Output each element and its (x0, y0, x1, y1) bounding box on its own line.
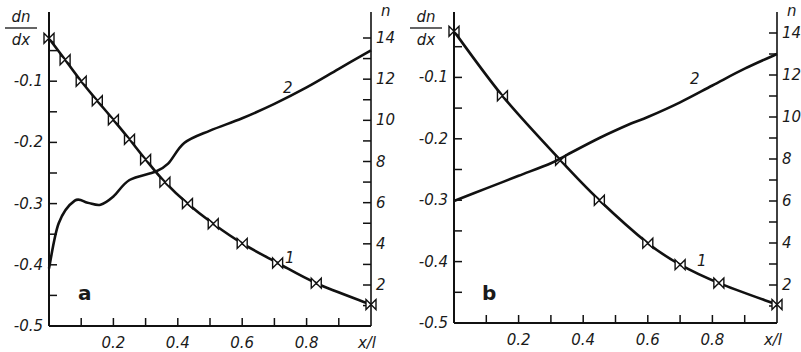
curve-1-label: 1 (285, 249, 295, 267)
bowtie-marker-icon (311, 278, 321, 288)
left-tick-label: -0.4 (14, 256, 43, 274)
bowtie-marker-icon (125, 134, 135, 144)
left-axis-title-den: dx (12, 31, 31, 49)
left-tick-label: -0.2 (419, 130, 448, 148)
bowtie-marker-icon (92, 96, 102, 106)
curve-2-label: 2 (690, 70, 700, 88)
right-tick-label: 2 (376, 276, 386, 294)
bowtie-marker-icon (76, 76, 86, 86)
right-tick-label: 8 (782, 150, 792, 168)
bowtie-marker-icon (714, 278, 724, 288)
right-tick-label: 12 (376, 70, 395, 88)
bowtie-marker-icon (594, 195, 604, 205)
x-tick-label: 0.6 (636, 331, 660, 349)
right-axis-title: n (787, 2, 797, 20)
left-tick-label: -0.4 (419, 253, 448, 271)
right-tick-label: 10 (376, 111, 395, 129)
left-axis-title-num: dn (416, 8, 435, 26)
right-axis-title: n (381, 2, 391, 20)
right-tick-label: 4 (376, 235, 386, 253)
bowtie-marker-icon (237, 238, 247, 248)
left-tick-label: -0.1 (419, 68, 448, 86)
right-tick-label: 6 (376, 194, 386, 212)
bowtie-marker-icon (273, 258, 283, 268)
left-tick-label: -0.1 (14, 72, 43, 90)
bowtie-marker-icon (497, 91, 507, 101)
x-tick-label: 0.6 (230, 334, 254, 352)
left-tick-label: -0.3 (419, 191, 448, 209)
curve-2-line (454, 54, 777, 201)
right-tick-label: 14 (782, 24, 801, 42)
figure: -0.1-0.2-0.3-0.4-0.50.20.40.60.8x/l14121… (0, 0, 801, 352)
x-tick-label: 0.2 (507, 331, 531, 349)
bowtie-marker-icon (60, 55, 70, 65)
x-tick-label: 0.2 (101, 334, 125, 352)
right-tick-label: 14 (376, 29, 395, 47)
right-tick-label: 12 (782, 66, 801, 84)
panel-label: a (78, 281, 92, 305)
panel-a: -0.1-0.2-0.3-0.4-0.50.20.40.60.8x/l14121… (5, 2, 395, 352)
left-tick-label: -0.3 (14, 195, 43, 213)
right-tick-label: 6 (782, 192, 792, 210)
right-tick-label: 4 (782, 234, 792, 252)
right-tick-label: 2 (782, 276, 792, 294)
x-tick-label: 0.8 (295, 334, 319, 352)
left-axis-title-num: dn (11, 8, 30, 26)
left-axis-title-den: dx (417, 31, 436, 49)
bowtie-marker-icon (208, 219, 218, 229)
x-axis-title: x/l (763, 331, 783, 349)
left-tick-label: -0.2 (14, 133, 43, 151)
bowtie-marker-icon (643, 238, 653, 248)
left-tick-label: -0.5 (419, 314, 448, 332)
curve-1-line (454, 31, 777, 304)
curve-1-label: 1 (697, 252, 707, 270)
curve-2-label: 2 (283, 79, 293, 97)
x-tick-label: 0.8 (700, 331, 724, 349)
x-axis-title: x/l (357, 334, 377, 352)
bowtie-marker-icon (675, 260, 685, 270)
panel-label: b (482, 281, 496, 305)
bowtie-marker-icon (108, 115, 118, 125)
right-tick-label: 10 (782, 108, 801, 126)
right-tick-label: 8 (376, 153, 386, 171)
bowtie-marker-icon (141, 155, 151, 165)
panel-b: -0.1-0.2-0.3-0.4-0.50.20.40.60.8x/l14121… (410, 2, 801, 349)
x-tick-label: 0.4 (166, 334, 190, 352)
curve-2-line (49, 50, 371, 268)
bowtie-marker-icon (182, 199, 192, 209)
left-tick-label: -0.5 (14, 317, 43, 335)
bowtie-marker-icon (160, 177, 170, 187)
x-tick-label: 0.4 (571, 331, 595, 349)
